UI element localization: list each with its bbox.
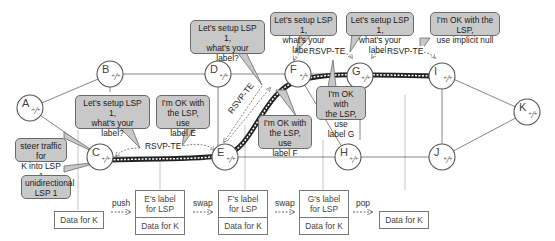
router-label: J <box>434 146 440 158</box>
swap-arrow-1 <box>192 208 216 216</box>
callout-line: label? <box>79 128 146 138</box>
router-node-a: A⁺⁄⁺ <box>17 95 43 121</box>
router-arrows-icon: ⁺⁄⁺ <box>349 156 359 165</box>
callout-line: label G <box>320 129 362 139</box>
callout-unidirectional: unidirectional LSP 1 <box>21 175 71 199</box>
router-arrows-icon: ⁺⁄⁺ <box>361 75 371 84</box>
router-label: E <box>217 146 224 158</box>
router-label: A <box>22 97 30 109</box>
router-label: K <box>519 101 527 113</box>
callout-e-setup: Let's setup LSP 1, what's your label? <box>190 20 265 54</box>
router-arrows-icon: ⁺⁄⁺ <box>226 156 236 165</box>
callout-line: I'm OK with <box>160 98 206 108</box>
callout-line: unidirectional <box>25 178 67 188</box>
router-label: F <box>290 63 297 75</box>
router-label: H <box>340 146 348 158</box>
callout-f-ok: I'm OK with the LSP, use label F <box>258 115 312 149</box>
router-label: I <box>434 65 437 77</box>
op-swap-2: swap <box>275 198 295 208</box>
callout-line: the LSP, use <box>320 109 362 129</box>
packet-data: Data for K <box>300 218 348 234</box>
router-arrows-icon: ⁺⁄⁺ <box>443 75 453 84</box>
label-line: for LSP <box>136 204 184 214</box>
router-arrows-icon: ⁺⁄⁺ <box>111 73 121 82</box>
callout-line: label? <box>194 53 261 63</box>
packet-ingress: Data for K <box>54 211 104 229</box>
callout-line: Let's setup LSP 1, <box>79 98 146 118</box>
router-arrows-icon: ⁺⁄⁺ <box>443 156 453 165</box>
router-arrows-icon: ⁺⁄⁺ <box>219 73 229 82</box>
callout-line: Let's setup LSP 1, <box>194 23 261 43</box>
router-arrows-icon: ⁺⁄⁺ <box>528 111 538 120</box>
router-arrows-icon: ⁺⁄⁺ <box>299 73 309 82</box>
label-line: for LSP <box>219 204 267 214</box>
callout-line: Let's setup LSP 1, <box>274 15 333 35</box>
router-arrows-icon: ⁺⁄⁺ <box>31 107 41 116</box>
router-node-b: B⁺⁄⁺ <box>97 61 123 87</box>
packet-after-swap-2: G's labelfor LSP Data for K <box>299 190 349 235</box>
link-j-k <box>442 112 527 157</box>
packet-label: G's labelfor LSP <box>300 191 348 218</box>
callout-line: what's your <box>79 118 146 128</box>
callout-c-setup: Let's setup LSP 1, what's your label? <box>75 95 150 129</box>
packet-label: E's labelfor LSP <box>136 191 184 218</box>
callout-line: label E <box>160 128 206 138</box>
callout-line: the LSP, use <box>160 108 206 128</box>
callout-line: I'm OK with <box>262 118 308 128</box>
push-arrow <box>110 208 134 216</box>
callout-g-ok: I'm OK with the LSP, use label G <box>316 86 366 120</box>
op-push: push <box>112 198 130 208</box>
callout-line: LSP 1 <box>25 188 67 198</box>
callout-line: I'm OK with the LSP, <box>434 15 496 35</box>
packet-data: Data for K <box>380 212 428 228</box>
callout-line: label F <box>262 148 308 158</box>
router-label: D <box>210 63 218 75</box>
router-node-e: E⁺⁄⁺ <box>212 144 238 170</box>
callout-line: use implicit null <box>434 35 496 45</box>
callout-e-ok: I'm OK with the LSP, use label E <box>156 95 210 129</box>
swap-arrow-2 <box>274 208 298 216</box>
router-label: C <box>92 146 100 158</box>
router-arrows-icon: ⁺⁄⁺ <box>101 156 111 165</box>
router-node-f: F⁺⁄⁺ <box>285 61 311 87</box>
label-line: for LSP <box>300 204 348 214</box>
packet-label: F's labelfor LSP <box>219 191 267 218</box>
callout-g-setup: Let's setup LSP 1, what's your label? <box>346 12 414 36</box>
rsvp-label-c-e: RSVP-TE <box>144 141 182 151</box>
label-line: G's label <box>300 194 348 204</box>
label-line: E's label <box>136 194 184 204</box>
router-node-h: H⁺⁄⁺ <box>335 144 361 170</box>
callout-line: what's your <box>194 43 261 53</box>
callout-line: the LSP, use <box>262 128 308 148</box>
callout-i-ok: I'm OK with the LSP, use implicit null <box>430 12 500 36</box>
router-node-j: J⁺⁄⁺ <box>429 144 455 170</box>
packet-egress: Data for K <box>379 211 429 229</box>
rsvp-label-g-i: RSVP-TE <box>386 46 424 56</box>
callout-f-setup: Let's setup LSP 1, what's your label? <box>270 12 337 36</box>
callout-line: I'm OK with <box>320 89 362 109</box>
router-label: G <box>352 65 361 77</box>
callout-line: Let's setup LSP 1, <box>350 15 410 35</box>
router-node-i: I⁺⁄⁺ <box>429 63 455 89</box>
rsvp-label-f-g: RSVP-TE <box>308 46 346 56</box>
packet-data: Data for K <box>219 218 267 234</box>
router-node-k: K⁺⁄⁺ <box>514 99 540 125</box>
callout-steer: steer traffic for K into LSP 1 <box>15 138 67 162</box>
label-line: F's label <box>219 194 267 204</box>
packet-after-swap-1: F's labelfor LSP Data for K <box>218 190 268 235</box>
op-pop: pop <box>356 198 370 208</box>
router-node-d: D⁺⁄⁺ <box>205 61 231 87</box>
router-node-c: C⁺⁄⁺ <box>87 144 113 170</box>
packet-after-push: E's labelfor LSP Data for K <box>135 190 185 235</box>
pop-arrow <box>352 208 376 216</box>
op-swap-1: swap <box>193 198 213 208</box>
callout-line: steer traffic for <box>19 141 63 161</box>
packet-data: Data for K <box>136 218 184 234</box>
router-label: B <box>102 63 109 75</box>
packet-data: Data for K <box>55 212 103 228</box>
